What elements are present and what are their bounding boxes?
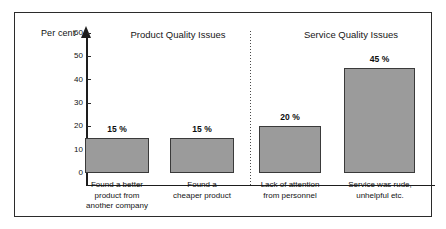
caption-line: from personnel — [243, 191, 337, 202]
caption-line: another company — [71, 201, 163, 212]
y-tick-mark — [87, 56, 91, 57]
y-tick-mark — [87, 33, 91, 34]
bar-caption-lack-of-attention: Lack of attention from personnel — [243, 180, 337, 201]
caption-line: cheaper product — [156, 191, 248, 202]
y-tick-mark — [87, 79, 91, 80]
panel-divider — [250, 31, 251, 185]
chart-frame: Per cent 60 50 40 30 20 10 0 Product Qua… — [14, 12, 432, 217]
bar-service-was-rude[interactable] — [344, 68, 415, 173]
caption-line: Found a — [156, 180, 248, 191]
bar-caption-found-cheaper-product: Found a cheaper product — [156, 180, 248, 201]
panel-title-product-quality: Product Quality Issues — [112, 29, 244, 40]
caption-line: Lack of attention — [243, 180, 337, 191]
bar-value-label: 15 % — [170, 124, 234, 134]
y-axis-title: Per cent — [41, 28, 75, 38]
y-tick-label: 0 — [79, 167, 83, 178]
y-tick-label: 40 — [74, 74, 83, 85]
y-tick-label: 30 — [74, 97, 83, 108]
caption-line: unhelpful etc. — [333, 191, 427, 202]
y-tick-label: 10 — [74, 144, 83, 155]
y-tick-mark — [87, 103, 91, 104]
bar-caption-found-better-product: Found a better product from another comp… — [71, 180, 163, 212]
bar-value-label: 45 % — [344, 54, 415, 64]
caption-line: product from — [71, 191, 163, 202]
bar-value-label: 15 % — [85, 124, 149, 134]
bar-lack-of-attention[interactable] — [259, 126, 321, 173]
y-tick-label: 60 — [74, 27, 83, 38]
bar-found-cheaper-product[interactable] — [170, 138, 234, 173]
y-tick-label: 20 — [74, 120, 83, 131]
caption-line: Service was rude, — [333, 180, 427, 191]
y-tick-label: 50 — [74, 50, 83, 61]
bar-found-better-product[interactable] — [85, 138, 149, 173]
bar-caption-service-was-rude: Service was rude, unhelpful etc. — [333, 180, 427, 201]
panel-title-service-quality: Service Quality Issues — [267, 29, 435, 40]
bar-value-label: 20 % — [259, 112, 321, 122]
caption-line: Found a better — [71, 180, 163, 191]
